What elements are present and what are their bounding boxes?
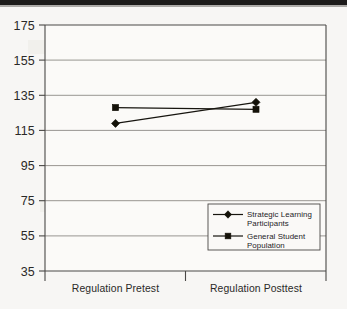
chart-screenshot: 175 155 135 115 95 75 55 35 Regulation P… bbox=[0, 0, 347, 309]
legend-label-strategic-learning-line1: Strategic Learning bbox=[247, 210, 312, 219]
x-axis-labels: Regulation Pretest Regulation Posttest bbox=[72, 283, 302, 294]
ytick-label-35: 35 bbox=[21, 265, 35, 279]
chart-canvas: 175 155 135 115 95 75 55 35 Regulation P… bbox=[0, 0, 347, 309]
y-tick-marks bbox=[39, 25, 45, 271]
x-tick-marks bbox=[186, 271, 327, 281]
chart-legend: Strategic Learning Participants General … bbox=[208, 204, 320, 250]
marker-square-pretest bbox=[113, 105, 119, 111]
legend-label-general-student-line1: General Student bbox=[247, 232, 306, 241]
ytick-label-95: 95 bbox=[21, 159, 35, 173]
line-chart: 175 155 135 115 95 75 55 35 Regulation P… bbox=[0, 0, 347, 309]
ytick-label-155: 155 bbox=[14, 54, 35, 68]
marker-square-posttest bbox=[253, 106, 259, 112]
ytick-label-115: 115 bbox=[14, 124, 35, 138]
ytick-label-135: 135 bbox=[14, 89, 35, 103]
legend-label-strategic-learning-line2: Participants bbox=[247, 219, 289, 228]
xtick-label-pretest: Regulation Pretest bbox=[72, 283, 159, 294]
ytick-label-75: 75 bbox=[21, 194, 35, 208]
y-axis-labels: 175 155 135 115 95 75 55 35 bbox=[14, 19, 35, 279]
legend-marker-square-icon bbox=[225, 233, 231, 239]
legend-label-general-student-line2: Population bbox=[247, 241, 285, 250]
xtick-label-posttest: Regulation Posttest bbox=[210, 283, 302, 294]
ytick-label-175: 175 bbox=[14, 19, 35, 33]
ytick-label-55: 55 bbox=[21, 229, 35, 243]
